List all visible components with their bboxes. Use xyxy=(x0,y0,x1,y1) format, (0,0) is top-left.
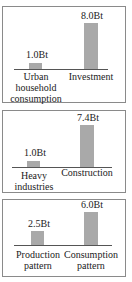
bar-value-label: 1.0Bt xyxy=(17,50,57,60)
bar-category-label: Consumption pattern xyxy=(62,249,120,271)
chart-panel-3: 2.5Bt Production pattern 6.0Bt Consumpti… xyxy=(2,199,126,277)
bar-value-label: 8.0Bt xyxy=(72,11,112,21)
chart-panel-1: 1.0Bt Urban household consumption 8.0Bt … xyxy=(2,6,126,103)
bar-category-label: Urban household consumption xyxy=(7,71,65,104)
bar-value-label: 1.0Bt xyxy=(15,148,55,158)
bar-value-label: 2.5Bt xyxy=(19,219,59,229)
bar-consumption-pattern xyxy=(84,212,98,245)
bar-heavy-industries xyxy=(27,161,40,167)
bar-value-label: 6.0Bt xyxy=(72,200,112,210)
x-axis-baseline xyxy=(14,245,112,246)
bar-urban-household-consumption xyxy=(29,63,42,69)
bar-production-pattern xyxy=(31,231,44,245)
chart-panel-2: 1.0Bt Heavy industries 7.4Bt Constructio… xyxy=(2,110,126,193)
bar-category-label: Construction xyxy=(58,167,116,178)
bar-construction xyxy=(80,125,94,167)
bar-category-label: Production pattern xyxy=(9,249,67,271)
x-axis-baseline xyxy=(14,69,108,70)
bar-category-label: Investment xyxy=(62,71,120,82)
bar-value-label: 7.4Bt xyxy=(68,113,108,123)
bar-investment xyxy=(84,23,98,69)
bar-category-label: Heavy industries xyxy=(5,170,63,192)
